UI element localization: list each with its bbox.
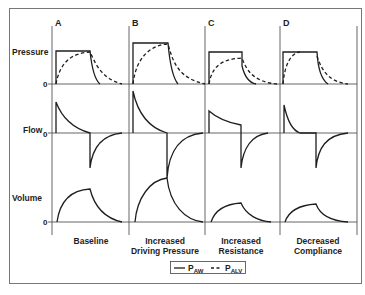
panel-b-curves bbox=[133, 43, 205, 222]
zero-label-volume: 0 bbox=[43, 218, 48, 227]
caption-c-line1: Increased bbox=[221, 236, 261, 246]
row-label-flow: Flow bbox=[23, 125, 43, 135]
caption-b-line1: Increased bbox=[145, 236, 185, 246]
panel-d-airway-pressure bbox=[283, 52, 328, 84]
legend: PAW PALV bbox=[171, 262, 246, 274]
legend-palv-label: PALV bbox=[225, 263, 242, 274]
row-label-pressure: Pressure bbox=[12, 47, 49, 57]
panel-c-curves bbox=[209, 52, 277, 222]
panel-c-flow bbox=[209, 111, 268, 168]
caption-b-line2: Driving Pressure bbox=[131, 246, 199, 256]
panel-c-volume bbox=[211, 203, 271, 222]
panel-b-volume bbox=[135, 178, 203, 222]
zero-label-pressure: 0 bbox=[43, 80, 48, 89]
caption-d-line2: Compliance bbox=[294, 246, 342, 256]
panel-letter-a: A bbox=[55, 18, 62, 28]
respiratory-mechanics-diagram: A B C D Pressure Flow Volume 0 0 0 bbox=[0, 0, 365, 295]
panel-c-airway-pressure bbox=[209, 52, 256, 84]
panel-a-volume bbox=[57, 189, 122, 222]
panel-a-airway-pressure bbox=[56, 51, 100, 84]
caption-d-line1: Decreased bbox=[296, 236, 339, 246]
panel-a-alveolar-pressure bbox=[56, 52, 122, 84]
panel-letter-c: C bbox=[208, 18, 215, 28]
caption-c-line2: Resistance bbox=[219, 246, 264, 256]
panel-letter-d: D bbox=[283, 18, 290, 28]
row-label-volume: Volume bbox=[12, 193, 42, 203]
caption-baseline: Baseline bbox=[74, 236, 109, 246]
panel-b-flow bbox=[133, 91, 203, 178]
panel-axes bbox=[52, 26, 357, 235]
panel-d-alveolar-pressure bbox=[283, 52, 348, 84]
zero-label-flow: 0 bbox=[43, 130, 48, 139]
panel-d-curves bbox=[283, 52, 348, 222]
panel-d-flow bbox=[284, 105, 348, 168]
panel-a-curves bbox=[56, 51, 122, 222]
legend-paw-label: PAW bbox=[188, 263, 204, 274]
panel-b-airway-pressure bbox=[133, 43, 178, 84]
panel-letter-b: B bbox=[132, 18, 139, 28]
panel-d-volume bbox=[285, 204, 348, 222]
panel-a-flow bbox=[56, 102, 122, 168]
